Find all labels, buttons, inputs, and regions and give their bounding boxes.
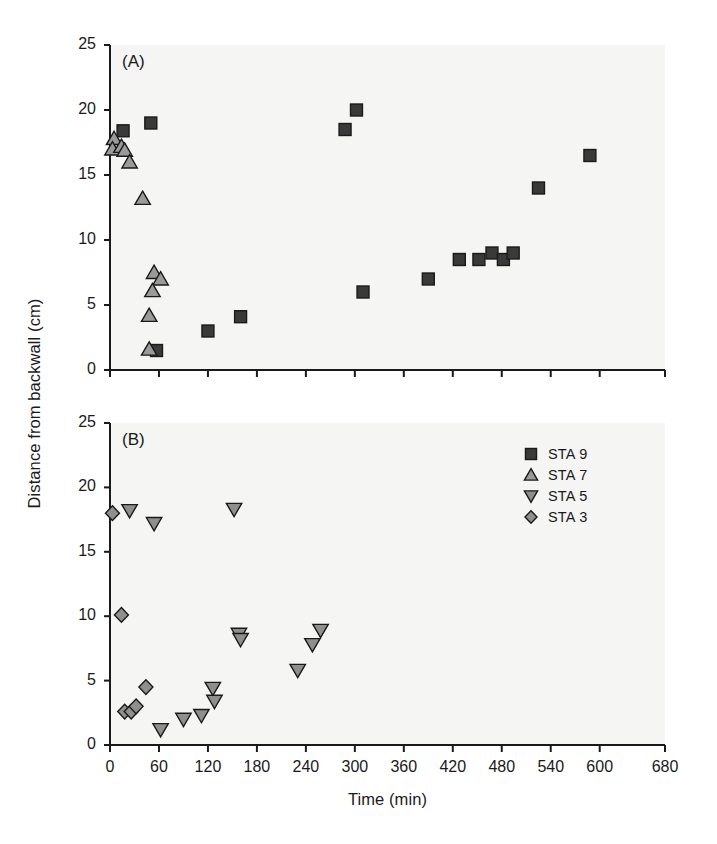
legend-item-sta-3: STA 3 (520, 506, 587, 527)
legend: STA 9STA 7STA 5STA 3 (520, 443, 587, 527)
data-point (139, 680, 153, 695)
data-point (313, 624, 328, 637)
panel-B-plot-area (0, 0, 717, 844)
panel-B-y-tick-label: 10 (56, 606, 96, 624)
data-point (153, 724, 168, 737)
panel-b: 0510152025060120180240300360420480540600… (0, 0, 717, 844)
data-point (305, 639, 320, 652)
data-point (122, 505, 137, 518)
panel-B-series-sta-3 (105, 506, 152, 719)
data-point (176, 713, 191, 726)
data-point (146, 518, 161, 531)
panel-B-y-tick-label: 20 (56, 477, 96, 495)
square-icon (520, 445, 542, 463)
legend-label: STA 5 (542, 488, 587, 504)
diamond-icon (520, 508, 542, 526)
panel-B-y-tick-label: 15 (56, 542, 96, 560)
data-point (118, 704, 132, 719)
panel-B-x-tick-label: 600 (570, 758, 630, 776)
data-point (205, 682, 220, 695)
panel-B-x-tick-label: 680 (635, 758, 695, 776)
panel-B-label: (B) (122, 430, 145, 450)
panel-B-series-sta-5 (122, 503, 328, 737)
panel-B-y-tick-label: 25 (56, 413, 96, 431)
legend-item-sta-9: STA 9 (520, 443, 587, 464)
data-point (290, 664, 305, 677)
data-point (226, 503, 241, 516)
legend-item-sta-7: STA 7 (520, 464, 587, 485)
data-point (114, 608, 128, 623)
legend-label: STA 3 (542, 509, 587, 525)
data-point (207, 695, 222, 708)
data-point (105, 506, 119, 521)
figure-root: Distance from backwall (cm) Time (min) 0… (0, 0, 717, 844)
triangle-up-icon (520, 466, 542, 484)
data-point (124, 704, 138, 719)
data-point (231, 628, 246, 641)
data-point (194, 709, 209, 722)
data-point (233, 633, 248, 646)
legend-label: STA 9 (542, 446, 587, 462)
triangle-down-icon (520, 487, 542, 505)
legend-label: STA 7 (542, 467, 587, 483)
legend-item-sta-5: STA 5 (520, 485, 587, 506)
panel-B-y-tick-label: 5 (56, 671, 96, 689)
data-point (129, 699, 143, 714)
panel-B-y-tick-label: 0 (56, 735, 96, 753)
